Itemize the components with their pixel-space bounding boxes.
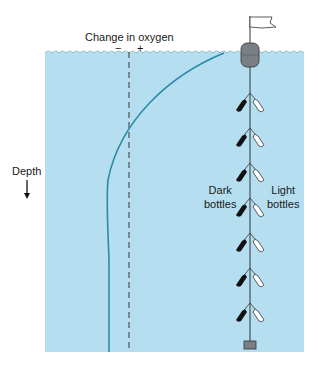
dark-bottles-label-line2: bottles — [204, 197, 236, 211]
depth-arrow-icon — [24, 193, 30, 199]
depth-label: Depth — [12, 165, 41, 178]
x-axis-minus-label: − — [115, 42, 121, 55]
oxygen-depth-diagram: Change in oxygen − + Depth Dark bottles … — [0, 0, 319, 367]
light-bottles-label-line1: Light — [267, 183, 299, 197]
x-axis-plus-label: + — [137, 42, 143, 55]
dark-bottles-label-line1: Dark — [204, 183, 236, 197]
water-region — [45, 52, 304, 352]
light-bottles-label-line2: bottles — [267, 197, 299, 211]
dark-bottles-label: Dark bottles — [204, 183, 236, 211]
anchor-weight — [244, 341, 256, 349]
light-bottles-label: Light bottles — [267, 183, 299, 211]
flag-icon — [250, 17, 276, 28]
x-axis-title: Change in oxygen — [85, 31, 174, 44]
